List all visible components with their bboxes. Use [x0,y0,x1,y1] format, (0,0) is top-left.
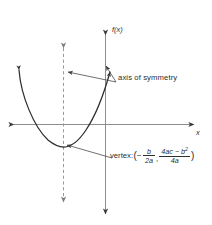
x-axis-label: x [196,129,200,136]
axis-of-symmetry-label: axis of symmetry [118,74,177,82]
vertex-x-fraction: b 2a [143,148,155,164]
parabola-curve [19,70,110,147]
vertex-label: vertex: ( − b 2a , 4ac − b2 4a ) [110,147,194,164]
vertex-y-fraction: 4ac − b2 4a [159,147,190,164]
vertex-close-paren: ) [191,151,194,161]
vertex-y-denominator: 4a [169,157,181,165]
quadratic-graph-figure: f(x) x axis of symmetry vertex: ( − b 2a… [0,0,212,225]
vertex-comma: , [156,155,158,164]
vertex-x-denominator: 2a [143,156,155,164]
y-axis-label: f(x) [112,26,123,33]
vertex-y-numerator-exponent: 2 [185,146,188,152]
vertex-x-numerator: b [145,148,153,156]
vertex-y-numerator: 4ac − b2 [159,147,190,156]
vertex-label-prefix: vertex: [110,152,133,160]
vertex-y-numerator-text: 4ac − b [161,147,185,156]
vertex-minus-sign: − [137,152,142,160]
graph-canvas [0,0,212,225]
